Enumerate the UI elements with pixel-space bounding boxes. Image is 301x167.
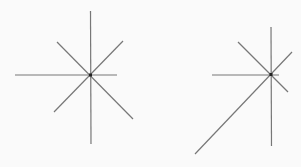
left-star-diagonal-nw-se-line (57, 42, 133, 119)
right-star-vertical-line (271, 27, 272, 146)
right-star-diagonal-nw-se-line (238, 42, 288, 92)
left-star-vertical-line (91, 11, 92, 144)
left-star-figure (15, 11, 133, 144)
right-star-diagonal-ne-sw-line (195, 52, 292, 154)
left-star-diagonal-ne-sw-line (54, 41, 123, 112)
right-star-center-point (270, 73, 273, 76)
right-star-figure (195, 27, 292, 154)
diagram-canvas (0, 0, 301, 167)
left-star-center-point (89, 74, 92, 77)
